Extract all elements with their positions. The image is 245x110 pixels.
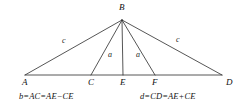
segment-cevian-BF [122,20,155,75]
caption-left: b=AC=AE−CE [19,92,74,101]
side-label-c-left: c [62,37,66,45]
figure-container: A B C E F D c c a a b=AC=AE−CE d=CD=AE+C… [0,0,245,110]
vertex-label-D: D [226,78,233,87]
vertex-label-E: E [120,78,126,87]
caption-right: d=CD=AE+CE [140,92,196,101]
side-label-a-left: a [108,51,112,59]
vertex-label-B: B [119,3,125,12]
segments-group [25,20,222,75]
segment-side-BD [122,20,222,75]
segment-cevian-BC [91,20,122,75]
segment-cevian-BE [122,20,123,75]
vertex-label-F: F [152,78,158,87]
side-label-c-right: c [176,36,180,44]
vertex-label-A: A [22,78,28,87]
segment-side-BA [25,20,122,75]
side-label-a-right: a [136,51,140,59]
vertex-label-C: C [88,78,94,87]
